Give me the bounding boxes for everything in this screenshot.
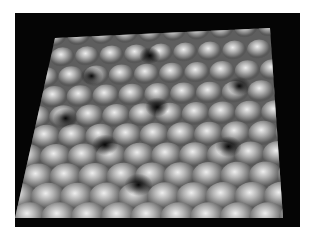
surface-bump: [44, 29, 67, 48]
surface-bump: [223, 40, 247, 60]
surface-pit: [80, 67, 102, 85]
surface-pit: [215, 136, 241, 157]
surface-pit: [124, 174, 152, 197]
surface-pit: [139, 47, 160, 64]
surface-bump: [92, 26, 115, 45]
surface-bump: [163, 23, 186, 42]
surface-bump: [159, 63, 185, 85]
surface-image-frame: [15, 13, 300, 227]
surface-bump: [272, 38, 296, 58]
surface-bump: [33, 67, 59, 89]
surface-bump: [247, 39, 271, 59]
surface-bump: [198, 41, 222, 61]
surface-bump: [187, 22, 210, 41]
surface-bump: [170, 82, 198, 105]
surface-bump: [139, 24, 162, 43]
surface-pit: [145, 97, 169, 116]
surface-bump: [51, 47, 75, 67]
surface-bump: [274, 79, 300, 102]
surface-bump: [68, 27, 91, 46]
surface-bump: [109, 65, 135, 87]
surface-bump: [260, 59, 286, 81]
surface-bump: [58, 66, 84, 88]
surface-bump: [173, 42, 197, 62]
surface-pit: [92, 134, 118, 155]
surface-topography-render: [15, 13, 300, 227]
surface-bump: [248, 80, 276, 103]
surface-bump: [259, 19, 282, 38]
surface-bump: [134, 64, 160, 86]
surface-bump: [100, 45, 124, 65]
surface-bump: [115, 25, 137, 44]
surface-bump: [211, 21, 234, 40]
surface-bump: [184, 62, 210, 84]
surface-pit: [53, 109, 78, 129]
surface-bump: [235, 20, 258, 39]
surface-bump: [275, 120, 300, 146]
surface-bump: [75, 46, 99, 66]
surface-pit: [228, 77, 251, 95]
surface-bump: [196, 82, 224, 105]
